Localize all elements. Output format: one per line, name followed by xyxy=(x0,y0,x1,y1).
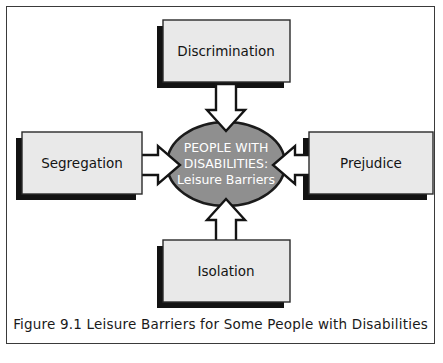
discrimination-box[interactable]: Discrimination xyxy=(163,20,290,82)
center-label-line-1: PEOPLE WITH xyxy=(184,140,269,155)
figure-caption: Figure 9.1 Leisure Barriers for Some Peo… xyxy=(8,316,433,332)
segregation-box[interactable]: Segregation xyxy=(22,132,142,194)
discrimination-box-label: Discrimination xyxy=(177,43,275,59)
figure-root: Discrimination Segregation Prejudice Iso… xyxy=(0,0,443,363)
diagram-canvas: Discrimination Segregation Prejudice Iso… xyxy=(0,0,443,363)
center-node-text: PEOPLE WITH DISABILITIES: Leisure Barrie… xyxy=(177,140,275,187)
prejudice-box[interactable]: Prejudice xyxy=(309,132,433,194)
isolation-box[interactable]: Isolation xyxy=(163,240,290,302)
center-label-line-3: Leisure Barriers xyxy=(177,172,275,187)
prejudice-box-label: Prejudice xyxy=(340,155,402,171)
segregation-box-label: Segregation xyxy=(41,155,123,171)
isolation-box-label: Isolation xyxy=(197,263,254,279)
center-label-line-2: DISABILITIES: xyxy=(184,156,268,171)
